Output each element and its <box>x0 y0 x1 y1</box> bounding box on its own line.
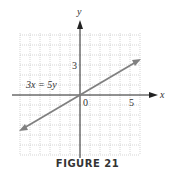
coordinate-plane: x y 0 5 3 3x = 5y <box>0 0 175 158</box>
y-axis-label: y <box>76 6 82 17</box>
y-tick-label: 3 <box>72 60 77 71</box>
x-tick-label: 5 <box>129 97 134 108</box>
equation-label: 3x = 5y <box>25 79 57 90</box>
y-axis-arrow-icon <box>77 20 83 29</box>
x-axis-arrow-icon <box>149 92 158 98</box>
x-axis-label: x <box>159 89 165 100</box>
axes <box>12 28 150 158</box>
figure-caption: FIGURE 21 <box>0 158 175 169</box>
origin-label: 0 <box>83 97 88 108</box>
